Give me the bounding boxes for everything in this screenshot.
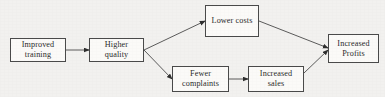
node-label: Lower costs	[210, 16, 255, 26]
node-fewer-complaints[interactable]: Fewer complaints	[172, 66, 229, 92]
node-label: Improved training	[20, 40, 57, 60]
flowchart-canvas: Improved training Higher quality Lower c…	[0, 0, 385, 97]
node-label: Increased Profits	[335, 39, 371, 59]
node-label: Increased sales	[258, 69, 294, 89]
node-lower-costs[interactable]: Lower costs	[205, 5, 259, 37]
node-higher-quality[interactable]: Higher quality	[89, 38, 144, 62]
connector-arrow	[144, 21, 205, 50]
node-label: Higher quality	[103, 40, 130, 60]
connector-arrow	[144, 50, 172, 79]
node-label: Fewer complaints	[180, 69, 221, 89]
connector-arrow	[259, 21, 328, 48]
node-increased-sales[interactable]: Increased sales	[248, 66, 304, 92]
connector-arrow	[304, 50, 328, 73]
node-improved-training[interactable]: Improved training	[10, 38, 66, 62]
node-increased-profits[interactable]: Increased Profits	[328, 34, 379, 63]
